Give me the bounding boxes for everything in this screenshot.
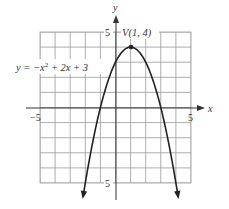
x-tick-right: 5	[188, 112, 193, 123]
y-axis-label: y	[112, 2, 118, 13]
curve-arrow-left-icon	[81, 191, 87, 199]
equation-label: y = −x2 + 2x + 3	[15, 61, 88, 73]
x-axis-arrow-icon	[197, 105, 205, 111]
vertex-point	[129, 45, 134, 50]
y-tick-top: 5	[105, 27, 110, 38]
curve-arrow-right-icon	[174, 191, 180, 199]
vertex-label: V(1, 4)	[122, 27, 152, 39]
y-axis-arrow-icon	[113, 15, 119, 23]
y-tick-bottom: 5	[105, 178, 110, 189]
vertex-label-text: V(1, 4)	[122, 27, 152, 39]
x-tick-left: −5	[30, 112, 41, 123]
equation-prefix: y = −x	[15, 62, 45, 73]
equation-suffix: + 2x + 3	[48, 62, 88, 73]
x-axis-label: x	[207, 103, 213, 114]
parabola-chart: y x 5 5 −5 5 V(1, 4) y = −x2 + 2x + 3	[0, 0, 229, 209]
